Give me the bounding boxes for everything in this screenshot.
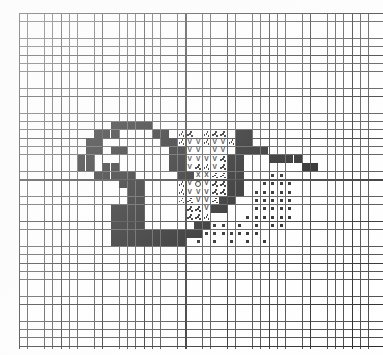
stitch-cell-speck xyxy=(219,163,227,171)
stitch-cell-fill xyxy=(119,222,127,230)
stitch-cell-fill xyxy=(169,230,177,238)
stitch-cell-fill xyxy=(119,230,127,238)
stitch-cell-fill xyxy=(136,222,144,230)
stitch-cell-fill xyxy=(186,230,194,238)
stitch-cell-fill xyxy=(311,163,319,171)
stitch-cell-dot xyxy=(252,188,260,196)
stitch-cell-dot xyxy=(286,213,294,221)
stitch-cell-fill xyxy=(236,172,244,180)
stitch-cell-dot xyxy=(252,205,260,213)
stitch-cell-fill xyxy=(128,238,136,246)
stitch-cell-speck xyxy=(203,130,211,138)
stitch-cell-vee xyxy=(194,188,202,196)
stitch-cell-fill xyxy=(211,205,219,213)
stitch-cell-speck xyxy=(178,197,186,205)
stitch-cell-speck xyxy=(219,180,227,188)
stitch-cell-speck xyxy=(219,130,227,138)
stitch-cell-dot xyxy=(269,213,277,221)
stitch-cell-fill xyxy=(111,130,119,138)
stitch-cell-fill xyxy=(236,180,244,188)
stitch-cell-fill xyxy=(161,230,169,238)
stitch-cell-vee xyxy=(203,197,211,205)
stitch-cell-vee xyxy=(211,138,219,146)
stitch-cell-fill xyxy=(269,155,277,163)
stitch-cell-dot xyxy=(286,205,294,213)
stitch-cell-fill xyxy=(203,222,211,230)
stitch-cell-fill xyxy=(119,213,127,221)
stitch-cell-fill xyxy=(128,213,136,221)
stitch-cell-fill xyxy=(119,180,127,188)
stitch-cell-fill xyxy=(111,122,119,130)
stitch-cell-speck xyxy=(178,130,186,138)
stitch-cell-dot xyxy=(277,180,285,188)
stitch-cell-fill xyxy=(169,147,177,155)
stitch-cell-vee xyxy=(211,163,219,171)
stitch-cell-fill xyxy=(86,155,94,163)
stitch-cell-fill xyxy=(136,180,144,188)
stitch-cell-fill xyxy=(136,197,144,205)
stitch-cell-speck xyxy=(211,180,219,188)
stitch-cell-fill xyxy=(144,238,152,246)
stitch-cell-dot xyxy=(261,238,269,246)
stitch-cell-fill xyxy=(111,213,119,221)
stitch-cell-fill xyxy=(78,155,86,163)
stitch-cell-fill xyxy=(236,188,244,196)
stitch-cell-vee xyxy=(219,138,227,146)
stitch-cell-dot xyxy=(269,188,277,196)
stitch-cell-fill xyxy=(119,147,127,155)
stitch-cell-fill xyxy=(178,163,186,171)
stitch-cell-dot xyxy=(286,180,294,188)
stitch-cell-dot xyxy=(203,230,211,238)
stitch-cell-dot xyxy=(211,222,219,230)
stitch-cell-speck xyxy=(211,197,219,205)
stitch-cell-fill xyxy=(186,172,194,180)
stitch-cell-vee xyxy=(194,147,202,155)
stitch-cell-ex xyxy=(203,172,211,180)
stitch-cell-dot xyxy=(269,205,277,213)
stitch-cell-dot xyxy=(286,188,294,196)
stitch-cell-fill xyxy=(111,222,119,230)
stitch-cell-vee xyxy=(186,188,194,196)
stitch-cell-dot xyxy=(244,230,252,238)
stitch-cell-fill xyxy=(169,138,177,146)
stitch-cell-vee xyxy=(186,155,194,163)
stitch-cell-fill xyxy=(244,147,252,155)
stitch-cell-fill xyxy=(236,138,244,146)
stitch-cell-dot xyxy=(277,222,285,230)
stitch-cell-dot xyxy=(244,213,252,221)
stitch-cell-dot xyxy=(211,238,219,246)
stitch-cell-speck xyxy=(211,172,219,180)
stitch-cell-vee xyxy=(211,147,219,155)
stitch-cell-dot xyxy=(211,230,219,238)
stitch-cell-fill xyxy=(161,130,169,138)
stitch-cell-fill xyxy=(261,147,269,155)
stitch-cell-ex xyxy=(194,172,202,180)
stitch-cell-speck xyxy=(219,188,227,196)
stitch-cell-fill xyxy=(178,238,186,246)
stitch-cell-speck xyxy=(228,138,236,146)
stitch-cell-dot xyxy=(236,222,244,230)
stitch-cell-fill xyxy=(136,238,144,246)
stitch-cell-dot xyxy=(228,238,236,246)
stitch-cell-fill xyxy=(219,197,227,205)
stitch-cell-fill xyxy=(136,213,144,221)
stitch-cell-vee xyxy=(186,180,194,188)
stitch-cell-fill xyxy=(277,155,285,163)
stitch-cell-fill xyxy=(128,205,136,213)
stitch-cell-fill xyxy=(252,147,260,155)
stitch-cell-fill xyxy=(86,163,94,171)
stitch-cell-fill xyxy=(178,147,186,155)
stitch-cell-fill xyxy=(128,172,136,180)
stitch-cell-fill xyxy=(119,122,127,130)
stitch-cell-fill xyxy=(128,197,136,205)
stitch-cell-fill xyxy=(136,122,144,130)
stitch-cell-fill xyxy=(169,238,177,246)
stitch-cell-vee xyxy=(203,155,211,163)
stitch-cell-fill xyxy=(119,172,127,180)
stitch-cell-fill xyxy=(228,172,236,180)
stitch-cell-vee xyxy=(194,197,202,205)
stitch-cell-fill xyxy=(302,163,310,171)
stitch-cell-dot xyxy=(228,230,236,238)
stitch-cell-dot xyxy=(252,197,260,205)
stitch-cell-vee xyxy=(186,163,194,171)
